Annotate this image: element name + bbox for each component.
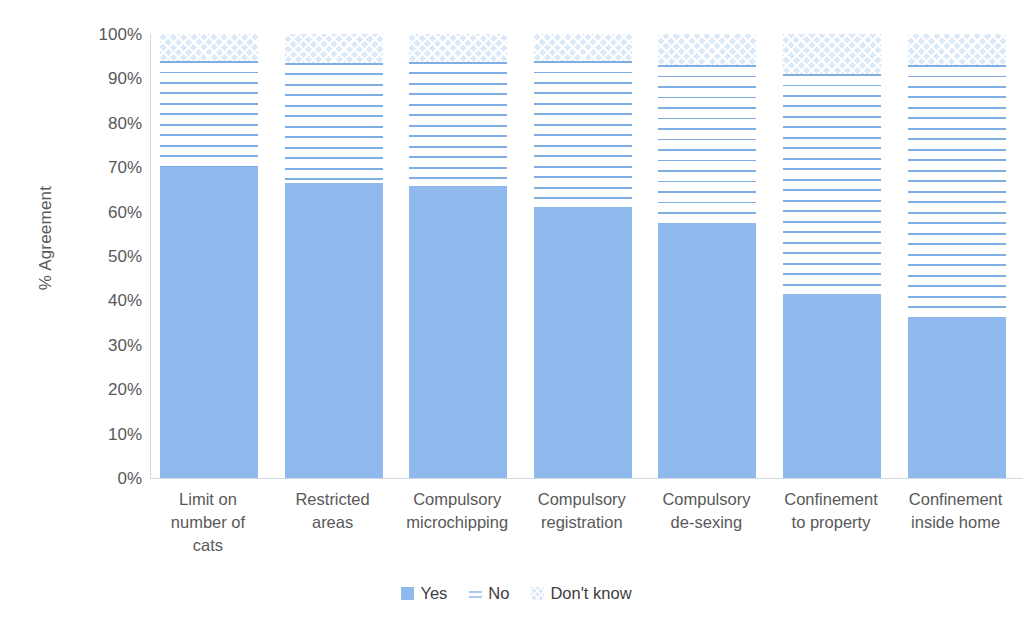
y-axis-title: % Agreement bbox=[36, 148, 56, 328]
bar-segment-don-t-know[interactable] bbox=[160, 34, 258, 61]
legend-swatch-don-t-know-icon bbox=[531, 587, 544, 600]
y-axis-tick-labels: 100%90%80%70%60%50%40%30%20%10%0% bbox=[60, 0, 142, 642]
bar-group[interactable] bbox=[409, 34, 507, 478]
x-axis-tick-label: Confinementinside home bbox=[895, 488, 1017, 534]
bar-segment-yes[interactable] bbox=[534, 207, 632, 478]
bar-segment-no[interactable] bbox=[285, 63, 383, 183]
bar-group[interactable] bbox=[658, 34, 756, 478]
x-axis-label-line: number of bbox=[147, 511, 269, 534]
bar-segment-don-t-know[interactable] bbox=[534, 34, 632, 61]
bar-segment-yes[interactable] bbox=[285, 183, 383, 478]
x-axis-label-line: registration bbox=[521, 511, 643, 534]
bar-segment-yes[interactable] bbox=[658, 223, 756, 478]
bar-segment-no[interactable] bbox=[658, 65, 756, 223]
x-axis-tick-label: Restrictedareas bbox=[272, 488, 394, 534]
x-axis-label-line: microchipping bbox=[396, 511, 518, 534]
x-axis-tick-label: Compulsoryregistration bbox=[521, 488, 643, 534]
bar-segment-don-t-know[interactable] bbox=[285, 34, 383, 63]
bar-segment-don-t-know[interactable] bbox=[908, 34, 1006, 65]
legend-item-no[interactable]: No bbox=[469, 584, 509, 603]
y-axis-tick-60: 60% bbox=[60, 203, 142, 220]
x-axis-label-line: Compulsory bbox=[521, 488, 643, 511]
bar-segment-don-t-know[interactable] bbox=[409, 34, 507, 62]
y-axis-tick-100: 100% bbox=[60, 26, 142, 43]
x-axis-label-line: Limit on bbox=[147, 488, 269, 511]
bar-segment-don-t-know[interactable] bbox=[658, 34, 756, 65]
legend-label: No bbox=[488, 584, 509, 603]
bars-layer bbox=[151, 34, 1023, 478]
x-axis-label-line: areas bbox=[272, 511, 394, 534]
y-axis-tick-10: 10% bbox=[60, 425, 142, 442]
legend-item-don-t-know[interactable]: Don't know bbox=[531, 584, 631, 603]
bar-segment-yes[interactable] bbox=[160, 167, 258, 478]
x-axis-tick-labels: Limit onnumber ofcatsRestrictedareasComp… bbox=[150, 488, 1022, 566]
x-axis-label-line: cats bbox=[147, 534, 269, 557]
bar-group[interactable] bbox=[908, 34, 1006, 478]
x-axis-label-line: Compulsory bbox=[396, 488, 518, 511]
bar-segment-no[interactable] bbox=[409, 62, 507, 186]
bar-segment-yes[interactable] bbox=[783, 294, 881, 478]
bar-group[interactable] bbox=[783, 34, 881, 478]
stacked-bar-chart: % Agreement 100%90%80%70%60%50%40%30%20%… bbox=[0, 0, 1033, 642]
y-axis-tick-80: 80% bbox=[60, 114, 142, 131]
legend-label: Yes bbox=[420, 584, 447, 603]
y-axis-tick-90: 90% bbox=[60, 70, 142, 87]
x-axis-label-line: Compulsory bbox=[645, 488, 767, 511]
x-axis-label-line: Confinement bbox=[770, 488, 892, 511]
x-axis-tick-label: Compulsorymicrochipping bbox=[396, 488, 518, 534]
bar-group[interactable] bbox=[534, 34, 632, 478]
bar-group[interactable] bbox=[160, 34, 258, 478]
y-axis-tick-20: 20% bbox=[60, 381, 142, 398]
y-axis-tick-40: 40% bbox=[60, 292, 142, 309]
x-axis-tick-label: Compulsoryde-sexing bbox=[645, 488, 767, 534]
bar-segment-no[interactable] bbox=[160, 61, 258, 168]
legend-swatch-no-icon bbox=[469, 587, 482, 600]
bar-segment-yes[interactable] bbox=[409, 186, 507, 478]
y-axis-tick-70: 70% bbox=[60, 159, 142, 176]
x-axis-label-line: Restricted bbox=[272, 488, 394, 511]
bar-group[interactable] bbox=[285, 34, 383, 478]
x-axis-label-line: Confinement bbox=[895, 488, 1017, 511]
bar-segment-no[interactable] bbox=[908, 65, 1006, 317]
x-axis-label-line: to property bbox=[770, 511, 892, 534]
y-axis-tick-50: 50% bbox=[60, 248, 142, 265]
x-axis-label-line: inside home bbox=[895, 511, 1017, 534]
chart-legend: YesNoDon't know bbox=[0, 584, 1033, 603]
legend-label: Don't know bbox=[550, 584, 631, 603]
legend-item-yes[interactable]: Yes bbox=[401, 584, 447, 603]
plot-area bbox=[150, 34, 1023, 479]
bar-segment-yes[interactable] bbox=[908, 317, 1006, 478]
x-axis-tick-label: Limit onnumber ofcats bbox=[147, 488, 269, 557]
bar-segment-no[interactable] bbox=[783, 74, 881, 294]
x-axis-label-line: de-sexing bbox=[645, 511, 767, 534]
legend-swatch-yes-icon bbox=[401, 587, 414, 600]
bar-segment-no[interactable] bbox=[534, 61, 632, 208]
y-axis-tick-0: 0% bbox=[60, 470, 142, 487]
y-axis-tick-30: 30% bbox=[60, 336, 142, 353]
bar-segment-don-t-know[interactable] bbox=[783, 34, 881, 74]
x-axis-tick-label: Confinementto property bbox=[770, 488, 892, 534]
